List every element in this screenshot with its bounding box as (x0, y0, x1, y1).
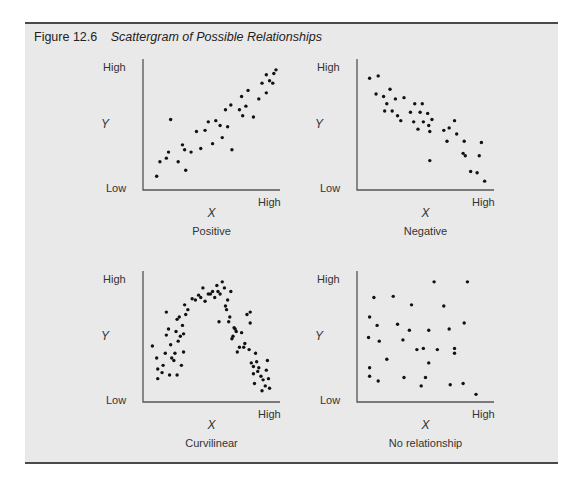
data-point (230, 148, 233, 151)
data-point (161, 364, 164, 367)
data-point (194, 298, 197, 301)
data-point (167, 327, 170, 330)
data-point (368, 315, 371, 318)
data-point (427, 124, 430, 127)
data-point (427, 361, 430, 364)
data-point (214, 119, 217, 122)
data-point (378, 339, 381, 342)
data-point (463, 321, 466, 324)
data-point (259, 375, 262, 378)
data-point (428, 159, 431, 162)
data-point (427, 329, 430, 332)
data-point (240, 95, 243, 98)
data-point (173, 352, 176, 355)
data-point (271, 81, 274, 84)
data-point (155, 175, 158, 178)
data-point (418, 110, 421, 113)
y-axis-low-label: Low (106, 182, 126, 194)
data-point (254, 352, 257, 355)
data-point (385, 102, 388, 105)
axes (143, 59, 280, 190)
data-point (228, 315, 231, 318)
data-point (257, 366, 260, 369)
data-point (238, 345, 241, 348)
data-point (428, 130, 431, 133)
data-point (199, 296, 202, 299)
data-point (225, 308, 228, 311)
x-axis-variable: X (208, 206, 216, 220)
x-axis-variable: X (422, 206, 430, 220)
data-point (213, 296, 216, 299)
data-point (368, 375, 371, 378)
data-point (469, 170, 472, 173)
data-point (396, 322, 399, 325)
scatter-panel-negative: HighLowHighYXNegative (309, 44, 524, 249)
panel-caption: Positive (192, 225, 231, 237)
data-point (268, 79, 271, 82)
figure-number: Figure 12.6 (34, 30, 97, 44)
data-point (207, 120, 210, 123)
data-point (211, 290, 214, 293)
data-point (461, 382, 464, 385)
y-axis-low-label: Low (106, 394, 126, 406)
data-point (422, 120, 425, 123)
data-point (229, 103, 232, 106)
x-axis-high-label: High (472, 408, 495, 420)
data-point (432, 280, 435, 283)
data-point (426, 112, 429, 115)
data-point (424, 376, 427, 379)
scatter-plot (95, 256, 310, 461)
data-point (169, 343, 172, 346)
data-point (245, 313, 248, 316)
data-point (442, 129, 445, 132)
data-point (172, 359, 175, 362)
data-point (168, 373, 171, 376)
data-point (455, 132, 458, 135)
data-point (174, 330, 177, 333)
data-point (265, 91, 268, 94)
data-point (183, 303, 186, 306)
data-point (382, 95, 385, 98)
data-point (231, 335, 234, 338)
data-point (445, 140, 448, 143)
data-point (442, 304, 445, 307)
data-point (375, 324, 378, 327)
data-point (249, 310, 252, 313)
data-point (478, 154, 481, 157)
data-point (238, 108, 241, 111)
data-point (181, 324, 184, 327)
y-axis-high-label: High (317, 273, 340, 285)
data-point (201, 286, 204, 289)
data-point (480, 141, 483, 144)
data-point (156, 377, 159, 380)
y-axis-low-label: Low (320, 394, 340, 406)
data-point (413, 102, 416, 105)
data-point (377, 74, 380, 77)
data-point (447, 126, 450, 129)
data-point (260, 81, 263, 84)
data-point (368, 77, 371, 80)
data-point (436, 348, 439, 351)
y-axis-variable: Y (315, 329, 323, 343)
data-point (474, 393, 477, 396)
x-axis-high-label: High (258, 408, 281, 420)
data-point (396, 114, 399, 117)
x-axis-variable: X (208, 418, 216, 432)
scatter-panel-positive: HighLowHighYXPositive (95, 44, 310, 249)
data-point (247, 348, 250, 351)
data-point (265, 368, 268, 371)
data-point (390, 109, 393, 112)
data-point (463, 140, 466, 143)
data-point (367, 336, 370, 339)
data-point (211, 142, 214, 145)
data-point (265, 73, 268, 76)
y-axis-high-label: High (317, 61, 340, 73)
data-point (217, 320, 220, 323)
data-point (158, 160, 161, 163)
data-point (409, 110, 412, 113)
data-point (195, 130, 198, 133)
data-point (268, 387, 271, 390)
data-point (422, 347, 425, 350)
data-point (181, 143, 184, 146)
data-point (167, 150, 170, 153)
